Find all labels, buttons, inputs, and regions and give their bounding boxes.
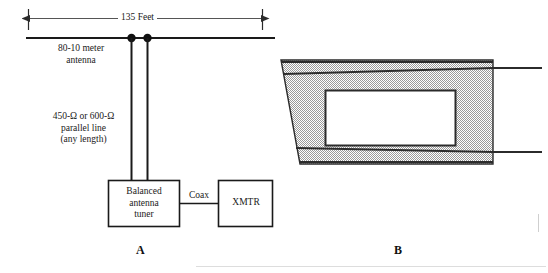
antenna-system-figure: 135 Feet 80-10 meter antenna 450-Ω or 60… — [0, 0, 548, 273]
xmtr-label: XMTR — [219, 197, 273, 209]
panel-b-letter: B — [394, 243, 402, 258]
coax-label: Coax — [182, 190, 216, 202]
feedline-label: 450-Ω or 600-Ω parallel line (any length… — [36, 111, 131, 146]
antenna-label: 80-10 meter antenna — [31, 43, 131, 66]
panel-a-letter: A — [136, 243, 145, 258]
dimension-label: 135 Feet — [118, 12, 157, 22]
tuner-label: Balanced antenna tuner — [108, 186, 180, 221]
window-opening — [326, 91, 456, 146]
